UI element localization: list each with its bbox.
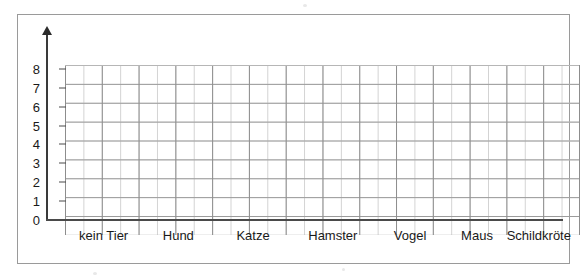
y-tick-label-4: 4 <box>18 138 40 151</box>
y-tick-mark-3 <box>59 163 66 164</box>
y-tick-label-3: 3 <box>18 157 40 170</box>
worksheet-frame <box>17 14 570 264</box>
y-tick-label-2: 2 <box>18 176 40 189</box>
x-category-label-4: Vogel <box>394 228 427 244</box>
y-tick-mark-7 <box>59 87 66 88</box>
y-tick-label-0: 0 <box>18 214 40 227</box>
y-tick-mark-0 <box>59 220 66 221</box>
x-axis-category-labels: kein TierHundKatzeHamsterVogelMausSchild… <box>47 228 562 248</box>
y-axis-line <box>46 32 48 221</box>
y-tick-mark-4 <box>59 144 66 145</box>
scan-speck <box>342 268 345 271</box>
grid-major-lines <box>65 65 580 235</box>
y-tick-label-1: 1 <box>18 195 40 208</box>
y-tick-label-7: 7 <box>18 81 40 94</box>
arrow-up-icon <box>42 26 52 35</box>
x-category-label-1: Hund <box>163 228 194 244</box>
x-category-label-5: Maus <box>461 228 493 244</box>
chart-plot-area <box>65 65 580 235</box>
y-tick-mark-5 <box>59 125 66 126</box>
y-tick-mark-1 <box>59 201 66 202</box>
y-tick-label-6: 6 <box>18 100 40 113</box>
y-tick-mark-6 <box>59 106 66 107</box>
x-category-label-3: Hamster <box>308 228 357 244</box>
scan-speck <box>93 272 97 275</box>
grid-right-border <box>579 65 580 235</box>
scan-speck <box>303 4 307 7</box>
x-axis-line <box>46 219 563 221</box>
y-axis-tick-labels: 876543210 <box>18 0 40 278</box>
y-tick-label-5: 5 <box>18 119 40 132</box>
x-category-label-2: Katze <box>236 228 269 244</box>
x-category-label-6: Schildkröte <box>507 228 571 244</box>
y-tick-label-8: 8 <box>18 62 40 75</box>
y-tick-mark-2 <box>59 182 66 183</box>
y-tick-mark-8 <box>59 68 66 69</box>
x-category-label-0: kein Tier <box>79 228 128 244</box>
grid-top-border <box>65 65 580 66</box>
